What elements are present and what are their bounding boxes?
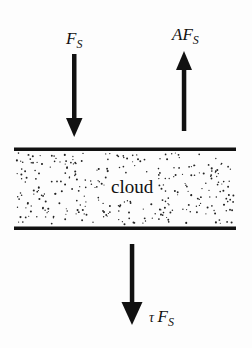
cloud-top-boundary xyxy=(14,148,236,152)
incident-flux-label: FS xyxy=(66,30,82,50)
transmitted-flux-symbol: F xyxy=(158,307,168,326)
transmitted-arrow-icon xyxy=(122,244,143,325)
transmitted-flux-subscript: S xyxy=(168,315,174,329)
reflected-flux-prefix: A xyxy=(172,25,182,44)
reflected-flux-label: AFS xyxy=(172,26,199,46)
transmitted-flux-label: τ FS xyxy=(149,308,174,328)
transmitted-flux-prefix: τ xyxy=(149,310,158,325)
reflected-flux-symbol: F xyxy=(182,25,192,44)
diagram-canvas xyxy=(0,0,252,348)
reflected-flux-subscript: S xyxy=(193,33,199,47)
cloud-bottom-boundary xyxy=(14,227,236,231)
incident-flux-subscript: S xyxy=(76,37,82,51)
reflected-arrow-icon xyxy=(176,51,192,131)
incident-arrow-icon xyxy=(66,54,83,137)
cloud-label: cloud xyxy=(111,176,153,198)
incident-flux-symbol: F xyxy=(66,29,76,48)
